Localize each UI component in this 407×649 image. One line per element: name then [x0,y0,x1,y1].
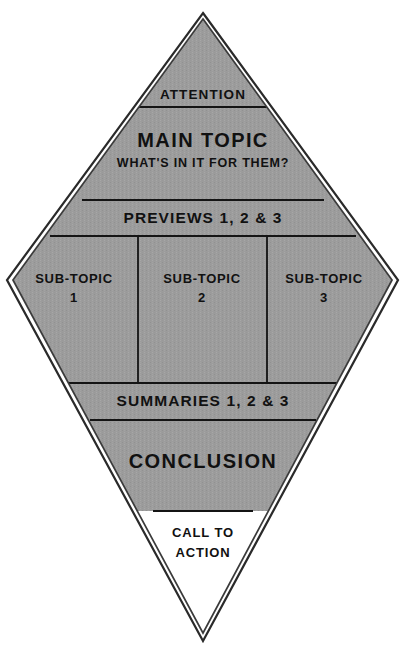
call-to-action-label-line-1: CALL TO [172,525,234,540]
sub-topic-3-label: SUB-TOPIC [285,271,363,286]
main-topic-sublabel: WHAT'S IN IT FOR THEM? [117,156,289,170]
section-attention[interactable]: ATTENTION [160,87,246,102]
section-summaries[interactable]: SUMMARIES 1, 2 & 3 [116,392,289,409]
previews-label: PREVIEWS 1, 2 & 3 [123,209,282,226]
sub-topic-1-label: SUB-TOPIC [35,271,113,286]
summaries-label: SUMMARIES 1, 2 & 3 [116,392,289,409]
call-to-action-label-line-2: ACTION [175,545,230,560]
attention-label: ATTENTION [160,87,246,102]
section-main-topic[interactable]: MAIN TOPIC WHAT'S IN IT FOR THEM? [117,129,289,170]
section-previews[interactable]: PREVIEWS 1, 2 & 3 [123,209,282,226]
sub-topic-2-number: 2 [198,290,206,305]
sub-topic-1-number: 1 [70,290,78,305]
main-topic-label: MAIN TOPIC [137,129,268,151]
sub-topic-3-number: 3 [320,290,328,305]
section-conclusion[interactable]: CONCLUSION [129,450,277,472]
diagram-canvas: ATTENTION MAIN TOPIC WHAT'S IN IT FOR TH… [0,0,407,649]
presentation-diamond-diagram: ATTENTION MAIN TOPIC WHAT'S IN IT FOR TH… [0,0,407,649]
sub-topic-2-label: SUB-TOPIC [163,271,241,286]
conclusion-label: CONCLUSION [129,450,277,472]
